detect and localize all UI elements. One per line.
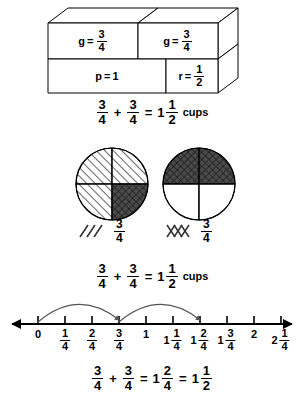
denominator: 4 <box>127 112 138 126</box>
fraction-part: 1 4 <box>172 328 182 352</box>
whole-part: 2 <box>271 334 277 346</box>
mixed-number: 1 2 4 <box>190 328 209 352</box>
whole-part: 1 <box>217 334 223 346</box>
numerator: 3 <box>92 364 103 377</box>
mixed-number: 1 1 4 <box>163 328 182 352</box>
equation-top-addend-2: 3 4 <box>127 98 138 126</box>
number-line-label-2: 2 4 <box>86 328 98 352</box>
denominator: 4 <box>123 378 134 392</box>
fraction-part: 2 4 <box>199 328 209 352</box>
denominator: 4 <box>114 231 125 244</box>
number-line-label-8: 2 <box>251 328 257 340</box>
numerator: 1 <box>280 328 290 339</box>
equals-sign: = <box>145 269 153 284</box>
legend-crosshatch: 3 4 <box>165 218 213 244</box>
denominator: 4 <box>172 340 182 352</box>
number-line-svg <box>0 296 304 358</box>
numerator: 3 <box>123 364 134 377</box>
circle-models-svg <box>0 140 304 250</box>
whole-part: 1 <box>163 334 169 346</box>
whole-part: 1 <box>153 371 160 386</box>
equation-bottom-sum-simplified: 1 1 2 <box>192 364 213 392</box>
numerator: 3 <box>97 98 108 111</box>
plus-sign: + <box>114 105 122 120</box>
numerator: 3 <box>97 262 108 275</box>
denominator: 4 <box>127 276 138 290</box>
whole-part: 1 <box>157 105 164 120</box>
equation-middle-addend-2: 3 4 <box>127 262 138 290</box>
denominator: 4 <box>162 378 173 392</box>
equals-sign-2: = <box>179 371 187 386</box>
denominator: 4 <box>199 340 209 352</box>
fraction-part: 3 4 <box>114 328 124 352</box>
denominator: 4 <box>201 231 212 244</box>
numerator: 1 <box>201 364 212 377</box>
equation-bottom-sum-quarters: 1 2 4 <box>153 364 174 392</box>
equation-bottom-addend-1: 3 4 <box>92 364 103 392</box>
numerator: 1 <box>60 328 70 339</box>
numerator: 1 <box>166 262 177 275</box>
whole-part: 1 <box>157 269 164 284</box>
equation-middle-sum: 1 1 2 <box>157 262 178 290</box>
number-line-label-5: 1 1 4 <box>163 328 182 352</box>
equation-bottom: 3 4 + 3 4 = 1 2 4 = 1 1 2 <box>0 364 304 392</box>
denominator: 4 <box>97 276 108 290</box>
legend-diagonal-fraction: 3 4 <box>114 218 125 244</box>
numerator: 3 <box>201 218 212 230</box>
fraction-part: 2 4 <box>162 364 173 392</box>
numerator: 3 <box>127 98 138 111</box>
fraction-part: 1 4 <box>280 328 290 352</box>
second-three-fourths-circle <box>163 148 235 220</box>
denominator: 2 <box>166 112 177 126</box>
legend-crosshatch-fraction: 3 4 <box>201 218 212 244</box>
first-three-fourths-circle <box>76 148 148 220</box>
figure-root: g = 3 4 g = 3 4 p = 1 r = 1 2 <box>0 0 304 397</box>
box-cell-p <box>48 59 166 93</box>
crosshatch-icon <box>165 223 195 239</box>
plus-sign: + <box>109 371 117 386</box>
circle-models: 3 4 3 4 <box>0 140 304 250</box>
numerator: 3 <box>114 328 124 339</box>
number-line-label-6: 1 2 4 <box>190 328 209 352</box>
denominator: 4 <box>97 112 108 126</box>
box-cell-r <box>166 59 218 93</box>
numerator: 2 <box>87 328 97 339</box>
number-line-label-1: 1 4 <box>59 328 71 352</box>
equation-top: 3 4 + 3 4 = 1 1 2 cups <box>0 98 304 126</box>
equation-middle-unit: cups <box>183 270 209 282</box>
number-line-label-4: 1 <box>143 328 149 340</box>
number-line-diagram: 0 1 4 2 4 3 4 1 1 1 <box>0 296 304 358</box>
number-line-label-9: 2 1 4 <box>271 328 290 352</box>
equation-middle: 3 4 + 3 4 = 1 1 2 cups <box>0 262 304 290</box>
whole-part: 0 <box>35 328 41 340</box>
number-line-label-0: 0 <box>35 328 41 340</box>
fraction-part: 1 4 <box>60 328 70 352</box>
equation-top-sum: 1 1 2 <box>157 98 178 126</box>
fraction-part: 3 4 <box>226 328 236 352</box>
denominator: 4 <box>280 340 290 352</box>
box-cell-g-right <box>138 23 218 59</box>
equation-bottom-addend-2: 3 4 <box>123 364 134 392</box>
denominator: 4 <box>226 340 236 352</box>
whole-part: 2 <box>251 328 257 340</box>
number-line-label-3: 3 4 <box>113 328 125 352</box>
box-cell-g-left <box>48 23 138 59</box>
jump-arc-2 <box>119 304 200 322</box>
equation-middle-addend-1: 3 4 <box>97 262 108 290</box>
legend-diagonal: 3 4 <box>78 218 126 244</box>
diagonal-hatch-icon <box>78 223 108 239</box>
fraction-part: 1 2 <box>166 98 177 126</box>
fraction-part: 2 4 <box>87 328 97 352</box>
denominator: 4 <box>114 340 124 352</box>
denominator: 4 <box>60 340 70 352</box>
whole-part: 1 <box>143 328 149 340</box>
box-model-diagram: g = 3 4 g = 3 4 p = 1 r = 1 2 <box>46 6 240 94</box>
number-line-label-7: 1 3 4 <box>217 328 236 352</box>
numerator: 2 <box>162 364 173 377</box>
numerator: 3 <box>127 262 138 275</box>
plus-sign: + <box>114 269 122 284</box>
number-line-ticks <box>38 316 281 324</box>
numerator: 1 <box>166 98 177 111</box>
denominator: 2 <box>166 276 177 290</box>
equals-sign: = <box>145 105 153 120</box>
